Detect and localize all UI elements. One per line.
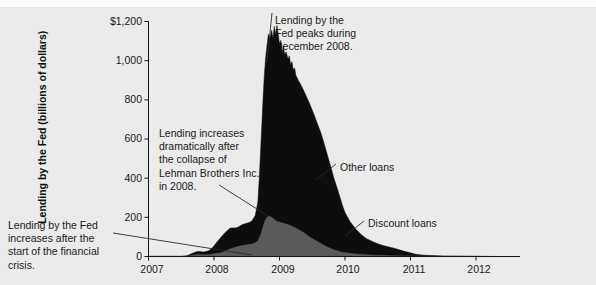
- chart-figure: Lending by the Fed (billions of dollars)…: [0, 0, 596, 285]
- plot-area: [0, 0, 596, 285]
- area-other-loans: [149, 25, 516, 256]
